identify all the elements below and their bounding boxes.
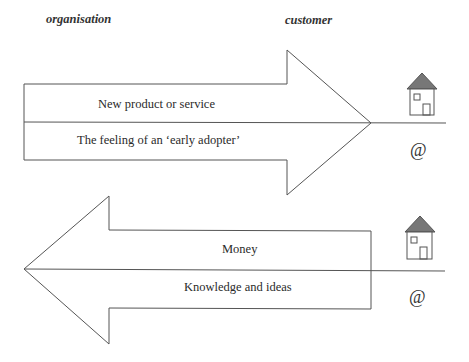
bottom-arrow-lower-label: Knowledge and ideas [184, 280, 292, 295]
top-arrow-lower-label: The feeling of an ‘early adopter’ [77, 133, 240, 148]
house-icon [405, 216, 435, 259]
bottom-arrow [24, 196, 445, 344]
house-icon [407, 73, 437, 115]
diagram-canvas [0, 0, 469, 362]
top-arrow-upper-label: New product or service [98, 97, 215, 112]
bottom-arrow-upper-label: Money [222, 242, 257, 257]
top-arrow [24, 50, 446, 195]
at-symbol: @ [409, 287, 426, 308]
at-symbol: @ [410, 140, 427, 161]
